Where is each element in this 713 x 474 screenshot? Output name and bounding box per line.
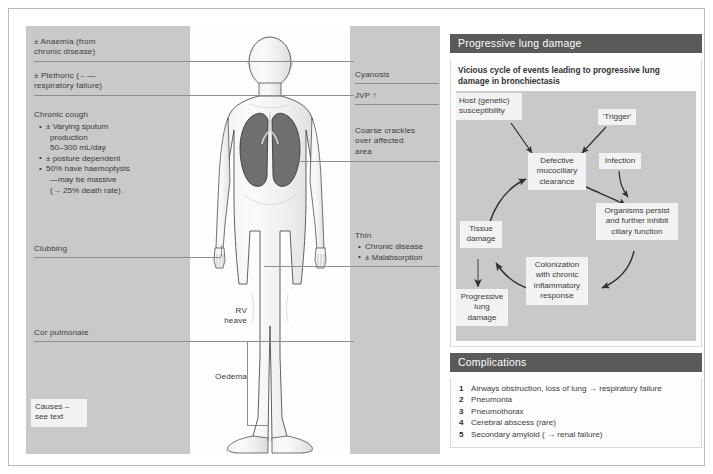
label-cor-pulmonale: Cor pulmonale [34, 328, 164, 338]
leader-clubbing-vertical [221, 245, 222, 257]
bullet-cont: —may be massive [39, 175, 167, 186]
bullet-text: ± Malabsorption [365, 253, 423, 262]
label-coarse-crackles: Coarse crackles over affected area [355, 126, 439, 157]
item-number: 5 [459, 429, 464, 440]
label-thin: Thin [355, 231, 439, 241]
figure-frame: ± Anaemia (from chronic disease) ± Pleth… [8, 8, 705, 466]
bullet-haemoptysis: 50% have haemoptysis [39, 164, 167, 175]
label-oedema: Oedema [195, 372, 247, 382]
patient-silhouette [190, 26, 350, 454]
complications-panel: 1 Airways obstruction, loss of lung → re… [450, 378, 702, 448]
node-progressive-lung-damage: Progressive lung damage [456, 289, 508, 326]
list-item: 4 Cerebral abscess (rare) [459, 417, 699, 428]
label-chronic-cough: Chronic cough [34, 110, 164, 120]
leader-oedema-vertical [247, 341, 248, 425]
bullet-chronic-disease: Chronic disease [358, 242, 442, 253]
item-text: Cerebral abscess (rare) [471, 418, 556, 427]
list-item: 3 Pneumothorax [459, 406, 699, 417]
bullet-text: 50% have haemoptysis [46, 164, 130, 173]
item-number: 1 [459, 383, 464, 394]
progressive-lung-damage-title: Progressive lung damage [450, 34, 702, 53]
leader-coarse-crackles-left [299, 161, 355, 162]
label-anaemia: ± Anaemia (from chronic disease) [34, 37, 164, 58]
item-text: Airways obstruction, loss of lung → resp… [471, 384, 662, 393]
leader-coarse-crackles [355, 161, 439, 162]
node-trigger: 'Trigger' [598, 109, 636, 125]
item-number: 4 [459, 417, 464, 428]
node-host-susceptibility: Host (genetic) susceptibility [456, 93, 522, 120]
label-clubbing: Clubbing [34, 244, 164, 254]
bullet-varying-sputum: ± Varying sputum [39, 122, 167, 133]
label-jvp: JVP ↑ [355, 91, 439, 101]
label-plethoric: ± Plethoric (←— respiratory failure) [34, 71, 164, 92]
bullet-cont: (→ 25% death rate) [39, 186, 167, 197]
leader-cor-pulmonale [34, 341, 354, 342]
bullet-cont: 50–300 mL/day [39, 143, 167, 154]
label-rv-heave: RV heave [195, 306, 247, 327]
leader-plethoric [34, 95, 354, 96]
item-number: 3 [459, 406, 464, 417]
leader-anaemia [34, 61, 354, 62]
complications-title: Complications [450, 353, 702, 372]
complications-list: 1 Airways obstruction, loss of lung → re… [459, 383, 699, 440]
bullet-text: ± Varying sputum [46, 122, 108, 131]
leader-cyanosis [355, 83, 439, 84]
label-cyanosis: Cyanosis [355, 70, 439, 80]
node-infection: Infection [599, 153, 641, 169]
leader-jvp [355, 104, 439, 105]
node-defective-clearance: Defective mucociliary clearance [528, 153, 586, 190]
item-text: Pneumonia [471, 395, 512, 404]
bullet-text: ± posture dependent [46, 154, 120, 163]
item-number: 2 [459, 394, 464, 405]
list-item: 2 Pneumonia [459, 394, 699, 405]
list-item: 5 Secondary amyloid ( → renal failure) [459, 429, 699, 440]
leader-thin [355, 266, 439, 267]
thin-bullet-list: Chronic disease ± Malabsorption [358, 242, 442, 263]
leader-clubbing [34, 257, 221, 258]
bullet-posture-dependent: ± posture dependent [39, 154, 167, 165]
node-colonization: Colonization with chronic inflammatory r… [526, 257, 588, 305]
bullet-malabsorption: ± Malabsorption [358, 253, 442, 264]
bullet-text: Chronic disease [365, 242, 423, 251]
chronic-cough-bullet-list: ± Varying sputum production 50–300 mL/da… [39, 122, 167, 196]
item-text: Pneumothorax [471, 407, 524, 416]
leader-oedema [247, 425, 269, 426]
item-text: Secondary amyloid ( → renal failure) [471, 430, 602, 439]
node-tissue-damage: Tissue damage [460, 221, 502, 248]
clinical-figure-bronchiectasis: ± Anaemia (from chronic disease) ± Pleth… [0, 0, 713, 474]
list-item: 1 Airways obstruction, loss of lung → re… [459, 383, 699, 394]
causes-box: Causes – see text [31, 399, 87, 427]
progressive-lung-damage-intro: Vicious cycle of events leading to progr… [458, 65, 690, 87]
progressive-lung-damage-panel: Vicious cycle of events leading to progr… [450, 59, 702, 347]
node-organisms-persist: Organisms persist and further inhibit ci… [596, 203, 678, 240]
leader-thin-left [264, 266, 355, 267]
vicious-cycle-diagram: Host (genetic) susceptibility 'Trigger' … [456, 91, 696, 341]
bullet-cont: production [39, 133, 167, 144]
